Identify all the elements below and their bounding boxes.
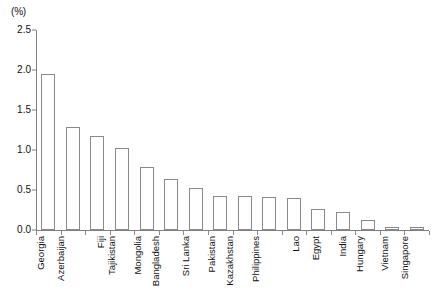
bar-slot <box>257 30 282 230</box>
x-axis-category-label: Georgia <box>31 202 41 236</box>
x-axis-tick-mark <box>233 231 234 235</box>
x-axis-category-label: Hungary <box>350 200 360 236</box>
y-axis-tick-label: 0.0 <box>17 225 31 235</box>
x-axis-label-slot: India <box>331 236 356 294</box>
bar[interactable] <box>66 127 80 230</box>
x-axis-category-label: Fiji <box>91 224 101 236</box>
x-axis-category-label-text: Sri Lanka <box>181 236 191 276</box>
x-axis-tick-mark <box>61 231 62 235</box>
bar-slot <box>404 30 429 230</box>
bar-series <box>36 30 429 230</box>
x-axis-category-label-text: India <box>338 236 348 257</box>
x-axis-category-label: Azerbaijan <box>50 191 60 236</box>
x-axis-category-label: Mongolia <box>127 197 137 236</box>
bar-slot <box>61 30 86 230</box>
x-axis-category-label-text: Mongolia <box>132 236 142 275</box>
y-axis-tick-label: 2.5 <box>17 25 31 35</box>
x-axis-category-label-text: Fiji <box>96 236 106 248</box>
x-axis-category-label: Lao <box>286 220 296 236</box>
x-axis-category-label: Kazakhstan <box>220 186 230 236</box>
bar-chart: (%) 0.00.51.01.52.02.5 GeorgiaAzerbaijan… <box>0 0 434 294</box>
x-axis-label-slot: Singapore <box>404 236 429 294</box>
bar-slot <box>282 30 307 230</box>
x-axis-tick-mark <box>159 231 160 235</box>
x-axis-category-label: Bangladesh <box>146 186 156 236</box>
x-axis-category-label: Sri Lanka <box>176 196 186 236</box>
bar[interactable] <box>361 220 375 230</box>
x-axis-category-label: Tajikistan <box>102 197 112 236</box>
x-axis-label-slot: Tajikistan <box>110 236 135 294</box>
x-axis-category-label: India <box>333 215 343 236</box>
x-axis-label-slot: Hungary <box>355 236 380 294</box>
x-axis-category-label-text: Hungary <box>355 236 365 272</box>
x-axis-labels: GeorgiaAzerbaijanFijiTajikistanMongoliaB… <box>36 236 429 294</box>
x-axis-label-slot: Egypt <box>306 236 331 294</box>
x-axis-category-label-text: Egypt <box>311 236 321 260</box>
x-axis-category-label: Philippines <box>246 190 256 236</box>
bar[interactable] <box>262 197 276 230</box>
x-axis-category-label: Singapore <box>395 193 405 236</box>
x-axis-category-label-text: Singapore <box>400 236 410 279</box>
x-axis-tick-mark <box>429 231 430 235</box>
x-axis-label-slot: Azerbaijan <box>61 236 86 294</box>
x-axis-category-label-text: Tajikistan <box>107 236 117 275</box>
x-axis-category-label-text: Kazakhstan <box>225 236 235 286</box>
x-axis-label-slot: Sri Lanka <box>183 236 208 294</box>
x-axis-category-label-text: Bangladesh <box>151 236 161 286</box>
x-axis-category-label: Egypt <box>306 212 316 236</box>
y-axis-tick-label: 2.0 <box>17 65 31 75</box>
x-axis-category-label-text: Azerbaijan <box>55 236 65 281</box>
y-axis-tick-label: 1.5 <box>17 105 31 115</box>
x-axis-label-slot: Philippines <box>257 236 282 294</box>
x-axis-category-label-text: Lao <box>291 236 301 252</box>
bar[interactable] <box>189 188 203 230</box>
y-axis-tick-label: 1.0 <box>17 145 31 155</box>
bar-slot <box>306 30 331 230</box>
x-axis-category-label-text: Philippines <box>251 236 261 282</box>
x-axis-category-label: Pakistan <box>202 200 212 236</box>
x-axis-tick-mark <box>282 231 283 235</box>
x-axis-tick-mark <box>85 231 86 235</box>
x-axis-tick-mark <box>257 231 258 235</box>
y-axis-unit-label: (%) <box>11 6 26 17</box>
x-axis-category-label-text: Vietnam <box>380 236 390 271</box>
y-axis-tick-label: 0.5 <box>17 185 31 195</box>
x-axis-category-label-text: Georgia <box>36 236 46 270</box>
bar[interactable] <box>410 227 424 230</box>
x-axis-label-slot: Lao <box>282 236 307 294</box>
x-axis-category-label-text: Pakistan <box>207 236 217 272</box>
plot-area: 0.00.51.01.52.02.5 <box>36 30 429 230</box>
x-axis-category-label: Vietnam <box>375 201 385 236</box>
